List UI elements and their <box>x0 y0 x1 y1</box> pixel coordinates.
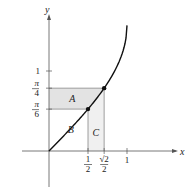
curve-point-1 <box>102 86 106 90</box>
curve-point-0 <box>86 107 90 111</box>
arcsin-area-diagram: x y 12√221π6π41 ABC <box>0 0 186 189</box>
y-tick-label-0-denominator: 6 <box>35 109 40 119</box>
x-tick-label-0-denominator: 2 <box>86 164 91 174</box>
x-tick-label-1-denominator: 2 <box>102 164 107 174</box>
region-label-c: C <box>92 127 99 138</box>
x-tick-label-0-numerator: 1 <box>86 154 91 164</box>
y-tick-label-1-numerator: π <box>34 78 39 88</box>
x-tick-label-0: 12 <box>84 154 92 174</box>
x-tick-label-2: 1 <box>125 155 130 165</box>
y-tick-label-1: π4 <box>32 78 40 98</box>
x-tick-label-1: √22 <box>99 154 108 174</box>
region-label-b: B <box>68 124 74 135</box>
x-axis-arrow-icon <box>172 149 178 153</box>
y-tick-label-1-denominator: 4 <box>35 88 40 98</box>
y-axis-label: y <box>44 4 50 15</box>
x-axis-label: x <box>179 146 185 157</box>
x-tick-label-1-numerator: √2 <box>99 154 108 164</box>
region-label-a: A <box>68 93 76 104</box>
y-tick-label-2: 1 <box>36 66 41 76</box>
y-tick-label-0: π6 <box>32 99 40 119</box>
y-tick-label-0-numerator: π <box>34 99 39 109</box>
